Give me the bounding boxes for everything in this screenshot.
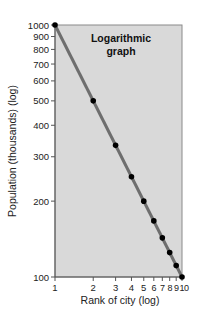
y-tick-label: 700 [33,59,49,70]
y-tick-label: 800 [33,44,49,55]
y-tick-label: 100 [33,272,49,283]
y-tick-label: 600 [33,75,49,86]
y-tick-label: 900 [33,31,49,42]
y-tick-label: 300 [33,151,49,162]
y-tick-label: 400 [33,120,49,131]
data-point [160,235,166,241]
data-point [141,198,147,204]
y-tick-label: 500 [33,95,49,106]
data-point [167,250,173,256]
x-tick-label: 1 [52,282,57,293]
y-axis-ticks: 1002003004005006007008009001000 [28,20,55,283]
y-tick-label: 200 [33,196,49,207]
y-tick-label: 1000 [28,20,49,31]
x-tick-label: 8 [167,283,172,293]
x-axis-title: Rank of city (log) [81,294,160,306]
data-point [179,274,185,280]
x-tick-label: 9 [174,283,179,293]
y-axis-title: Population (thousands) (log) [6,85,18,217]
data-point [90,98,96,104]
data-point [113,143,119,149]
x-tick-label: 10 [179,283,189,293]
x-tick-label: 5 [141,282,146,293]
x-axis-ticks: 12345678910 [52,277,189,293]
annotation-line-1: Logarithmic [91,32,151,44]
x-tick-label: 4 [129,282,134,293]
data-point [173,263,179,269]
data-point [151,218,157,224]
data-point [129,174,135,180]
x-tick-label: 2 [91,282,96,293]
data-point [52,22,58,28]
log-log-chart: 1002003004005006007008009001000 12345678… [0,0,199,328]
x-tick-label: 3 [113,282,118,293]
annotation-line-2: graph [106,45,135,57]
x-tick-label: 6 [152,283,157,293]
x-tick-label: 7 [160,283,165,293]
